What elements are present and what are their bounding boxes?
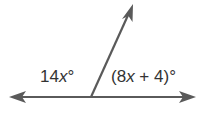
angle-right-degree: ° [169, 67, 176, 86]
ray-arrowhead-icon [122, 4, 133, 22]
angle-right-operator: + [135, 67, 154, 86]
angle-figure [0, 0, 209, 123]
angle-left-degree: ° [67, 67, 74, 86]
angle-diagram: 14x° (8x + 4)° [0, 0, 209, 123]
angle-label-left: 14x° [40, 68, 74, 85]
angle-label-right: (8x + 4)° [111, 68, 176, 85]
angle-right-coefficient: 8 [117, 67, 126, 86]
angle-left-coefficient: 14 [40, 67, 59, 86]
angle-right-variable: x [126, 67, 135, 86]
